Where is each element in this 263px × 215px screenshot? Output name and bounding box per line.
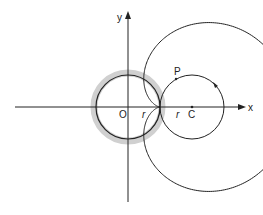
rolling-radius-label: r <box>176 109 180 120</box>
point-p-label: P <box>174 66 181 77</box>
origin-label: O <box>119 109 127 120</box>
point-p <box>175 78 177 80</box>
center-label: C <box>188 109 195 120</box>
cardioid-diagram: y x O r r C P <box>0 0 263 215</box>
x-axis-arrow-icon <box>238 104 246 110</box>
fixed-radius-label: r <box>142 109 146 120</box>
y-axis-arrow-icon <box>125 11 131 19</box>
center-point <box>191 106 194 109</box>
x-axis-label: x <box>248 102 253 113</box>
y-axis-label: y <box>117 12 122 23</box>
